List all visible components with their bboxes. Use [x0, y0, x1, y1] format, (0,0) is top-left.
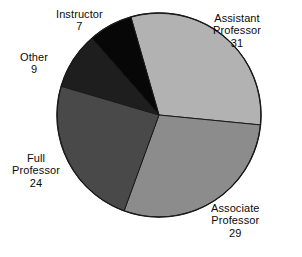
slice-label-line2: Professor	[213, 24, 261, 36]
slice-label-line1: Assistant	[213, 12, 261, 24]
slice-value: 7	[56, 20, 103, 32]
slice-label-assistant-professor: Assistant Professor 31	[213, 12, 261, 49]
slice-value: 24	[12, 177, 60, 189]
slice-label-full-professor: Full Professor 24	[12, 152, 60, 189]
slice-label-instructor: Instructor 7	[56, 8, 103, 33]
slice-label-line2: Professor	[12, 164, 60, 176]
slice-label-line1: Full	[12, 152, 60, 164]
slice-label-line1: Instructor	[56, 8, 103, 20]
slice-label-line1: Associate	[211, 202, 260, 214]
slice-value: 31	[213, 37, 261, 49]
pie-chart: Assistant Professor 31 Associate Profess…	[0, 0, 302, 257]
slice-label-other: Other 9	[20, 51, 48, 76]
slice-label-associate-professor: Associate Professor 29	[211, 202, 260, 239]
slice-label-line1: Other	[20, 51, 48, 63]
slice-value: 9	[20, 63, 48, 75]
slice-label-line2: Professor	[211, 214, 260, 226]
slice-value: 29	[211, 227, 260, 239]
